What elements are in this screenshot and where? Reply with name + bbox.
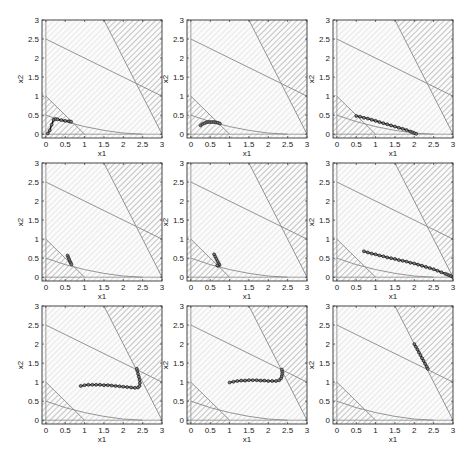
x-tick-label: 2.5	[428, 140, 440, 149]
trajectory-marker	[390, 257, 393, 260]
trajectory-marker	[271, 379, 274, 382]
trajectory-marker	[382, 122, 385, 125]
x-tick-label: 2	[266, 140, 271, 149]
x-tick-label: 3	[160, 283, 165, 292]
x-tick-label: 0.5	[205, 283, 217, 292]
trajectory-marker	[240, 379, 243, 382]
y-tick-label: 2.5	[173, 178, 185, 187]
trajectory-marker	[370, 252, 373, 255]
trajectory-marker	[374, 253, 377, 256]
trajectory-marker	[386, 123, 389, 126]
x-tick-label: 2	[266, 426, 271, 435]
x-tick-label: 2	[412, 140, 417, 149]
trajectory-marker	[46, 132, 49, 135]
trajectory-marker	[397, 126, 400, 129]
y-tick-label: 0	[326, 130, 331, 139]
trajectory-marker	[436, 269, 439, 272]
y-tick-label: 1	[180, 378, 185, 387]
trajectory-marker	[422, 359, 425, 362]
y-tick-label: 1.5	[28, 216, 40, 225]
y-tick-label: 0.5	[319, 397, 331, 406]
y-tick-label: 1	[326, 92, 331, 101]
x-tick-label: 0.5	[205, 140, 217, 149]
trajectory-marker	[232, 380, 235, 383]
x-tick-label: 3	[451, 283, 456, 292]
trajectory-marker	[135, 367, 138, 370]
subplot-2-1: 00.511.522.5300.511.522.53x1x2	[16, 155, 170, 301]
y-tick-label: 2	[326, 340, 331, 349]
y-tick-label: 3	[180, 16, 185, 25]
y-tick-label: 3	[35, 302, 40, 311]
y-tick-label: 2.5	[173, 35, 185, 44]
y-tick-label: 0	[35, 273, 40, 282]
x-axis-label: x1	[243, 435, 252, 444]
y-tick-label: 2.5	[28, 35, 40, 44]
x-tick-label: 2.5	[137, 426, 149, 435]
y-axis-label: x2	[161, 217, 170, 226]
trajectory-marker	[91, 383, 94, 386]
y-tick-label: 0.5	[319, 111, 331, 120]
y-tick-label: 1	[35, 235, 40, 244]
trajectory-marker	[102, 384, 105, 387]
trajectory-marker	[138, 378, 141, 381]
trajectory-marker	[405, 129, 408, 132]
trajectory-marker	[370, 118, 373, 121]
trajectory-marker	[122, 385, 125, 388]
trajectory-marker	[401, 259, 404, 262]
y-tick-label: 2.5	[319, 178, 331, 187]
x-axis-label: x1	[389, 149, 398, 158]
trajectory-marker	[79, 384, 82, 387]
y-axis-label: x2	[307, 360, 316, 369]
x-tick-label: 1.5	[243, 283, 255, 292]
y-tick-label: 3	[326, 302, 331, 311]
trajectory-marker	[114, 384, 117, 387]
y-tick-label: 0.5	[173, 397, 185, 406]
trajectory-marker	[251, 379, 254, 382]
x-tick-label: 3	[160, 426, 165, 435]
y-tick-label: 2	[180, 197, 185, 206]
x-tick-label: 0	[189, 140, 194, 149]
trajectory-marker	[60, 119, 63, 122]
y-tick-label: 0	[35, 130, 40, 139]
subplot-3-3: 00.511.522.5300.511.522.53x1x2	[307, 298, 461, 444]
x-tick-label: 1	[373, 426, 378, 435]
y-tick-label: 2.5	[319, 35, 331, 44]
trajectory-marker	[397, 259, 400, 262]
x-tick-label: 2	[412, 426, 417, 435]
y-tick-label: 1.5	[173, 73, 185, 82]
x-tick-label: 0.5	[60, 140, 72, 149]
x-tick-label: 1.5	[389, 140, 401, 149]
trajectory-marker	[386, 256, 389, 259]
y-tick-label: 3	[35, 159, 40, 168]
trajectory-marker	[137, 375, 140, 378]
trajectory-marker	[401, 127, 404, 130]
x-tick-label: 2.5	[282, 283, 294, 292]
y-tick-label: 0	[326, 273, 331, 282]
trajectory-marker	[374, 119, 377, 122]
y-tick-label: 2	[35, 340, 40, 349]
trajectory-marker	[413, 262, 416, 265]
x-tick-label: 1	[373, 283, 378, 292]
x-tick-label: 1.5	[98, 426, 110, 435]
x-tick-label: 0.5	[60, 283, 72, 292]
trajectory-marker	[83, 384, 86, 387]
y-tick-label: 1.5	[319, 216, 331, 225]
y-tick-label: 2.5	[319, 321, 331, 330]
x-tick-label: 0.5	[205, 426, 217, 435]
y-tick-label: 0	[35, 416, 40, 425]
trajectory-marker	[137, 372, 140, 375]
trajectory-marker	[244, 379, 247, 382]
x-tick-label: 2	[121, 283, 126, 292]
trajectory-marker	[393, 257, 396, 260]
trajectory-marker	[99, 383, 102, 386]
subplot-3-1: 00.511.522.5300.511.522.53x1x2	[16, 298, 170, 444]
trajectory-marker	[216, 264, 219, 267]
x-tick-label: 1.5	[243, 426, 255, 435]
y-tick-label: 1.5	[28, 73, 40, 82]
y-tick-label: 3	[326, 159, 331, 168]
y-tick-label: 1	[35, 378, 40, 387]
trajectory-marker	[267, 379, 270, 382]
y-tick-label: 1.5	[28, 359, 40, 368]
trajectory-marker	[138, 384, 141, 387]
x-tick-label: 3	[305, 283, 310, 292]
